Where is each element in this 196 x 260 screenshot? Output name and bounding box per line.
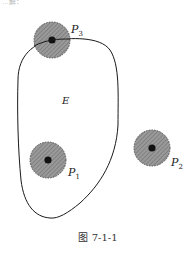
label-region-e: E — [61, 95, 70, 106]
label-p2: P2 — [170, 156, 183, 171]
cropped-text: …解： — [2, 0, 23, 6]
point-p2 — [148, 144, 155, 151]
neighborhood-p2 — [134, 130, 170, 166]
figure-caption: 图 7-1-1 — [78, 232, 117, 243]
region-e-boundary — [18, 39, 119, 219]
figure-7-1-1: …解： P3 E P1 P2 图 7-1-1 — [0, 0, 196, 260]
label-p1: P1 — [67, 166, 80, 181]
label-p3: P3 — [70, 23, 83, 38]
point-p1 — [44, 156, 51, 163]
neighborhood-p1 — [30, 142, 66, 178]
